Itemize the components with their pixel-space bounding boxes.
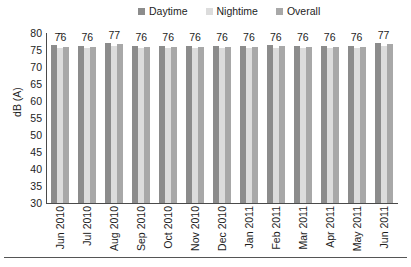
bar-data-label: 76 [47,32,74,43]
bar-data-label: 76 [343,32,370,43]
bar-data-label: 77 [370,30,397,41]
bar-data-label: 76 [289,32,316,43]
bar-data-label: 76 [209,32,236,43]
bar-overall[interactable] [333,47,339,203]
legend-label-daytime: Daytime [149,6,188,17]
bar-group[interactable]: 76 [128,33,155,203]
bar-group[interactable]: 76 [262,33,289,203]
bar-data-label: 76 [182,32,209,43]
bar-overall[interactable] [117,44,123,203]
x-tick-label: May 2011 [351,206,362,251]
bar-overall[interactable] [252,47,258,203]
x-tick-label: Apr 2011 [324,206,335,248]
x-tick-label: Sep 2010 [136,206,147,251]
bar-group[interactable]: 76 [316,33,343,203]
footer-rule [4,257,407,258]
bar-data-label: 76 [262,32,289,43]
bar-group[interactable]: 76 [289,33,316,203]
x-tick-label: Aug 2010 [109,206,120,251]
y-axis-ticks: 8075706560555045403530 [16,0,42,267]
bar-group[interactable]: 76 [74,33,101,203]
noise-level-bar-chart: Daytime Nightime Overall dB (A) 80757065… [0,0,411,267]
bar-data-label: 76 [316,32,343,43]
legend-item-daytime[interactable]: Daytime [138,6,188,17]
bar-group[interactable]: 76 [209,33,236,203]
legend-swatch-daytime [138,8,145,15]
bar-overall[interactable] [306,47,312,203]
y-tick-label: 50 [20,130,42,141]
x-tick-label: Oct 2010 [163,206,174,249]
x-tick-label: Nov 2010 [190,206,201,251]
y-tick-label: 65 [20,79,42,90]
bar-data-label: 76 [128,32,155,43]
y-tick-label: 80 [20,28,42,39]
bar-group[interactable]: 76 [235,33,262,203]
legend-swatch-nightime [206,8,213,15]
bar-overall[interactable] [225,47,231,203]
bar-data-label: 76 [235,32,262,43]
bar-overall[interactable] [387,44,393,203]
y-tick-label: 70 [20,62,42,73]
bar-group[interactable]: 76 [182,33,209,203]
x-tick-label: Mar 2011 [298,206,309,250]
legend-swatch-overall [276,8,283,15]
plot-area: 76767776767676767676767677 [46,33,397,203]
y-tick-label: 75 [20,45,42,56]
x-tick-label: Jun 2010 [55,206,66,249]
legend-item-overall[interactable]: Overall [276,6,320,17]
bar-group[interactable]: 77 [101,33,128,203]
bar-groups: 76767776767676767676767677 [47,33,397,203]
bar-group[interactable]: 76 [47,33,74,203]
bar-overall[interactable] [279,46,285,203]
legend-item-nightime[interactable]: Nightime [206,6,258,17]
bar-overall[interactable] [198,47,204,203]
y-tick-label: 55 [20,113,42,124]
bar-data-label: 77 [101,30,128,41]
x-tick-label: Jun 2011 [378,206,389,248]
bar-overall[interactable] [360,47,366,203]
y-tick-label: 60 [20,96,42,107]
x-tick-label: Feb 2011 [271,206,282,250]
x-tick-label: Jan 2011 [244,206,255,248]
bar-overall[interactable] [171,47,177,203]
legend-label-nightime: Nightime [217,6,258,17]
y-tick-label: 45 [20,147,42,158]
y-tick-label: 35 [20,181,42,192]
bar-overall[interactable] [63,47,69,203]
bar-group[interactable]: 76 [343,33,370,203]
bar-data-label: 76 [74,32,101,43]
bar-group[interactable]: 76 [155,33,182,203]
y-tick-label: 40 [20,164,42,175]
bar-overall[interactable] [144,47,150,203]
y-tick-label: 30 [20,198,42,209]
bar-data-label: 76 [155,32,182,43]
x-tick-label: Dec 2010 [217,206,228,251]
legend-label-overall: Overall [287,6,320,17]
chart-legend: Daytime Nightime Overall [138,4,320,18]
bar-group[interactable]: 77 [370,33,397,203]
x-tick-label: Jul 2010 [82,206,93,246]
bar-overall[interactable] [90,47,96,203]
